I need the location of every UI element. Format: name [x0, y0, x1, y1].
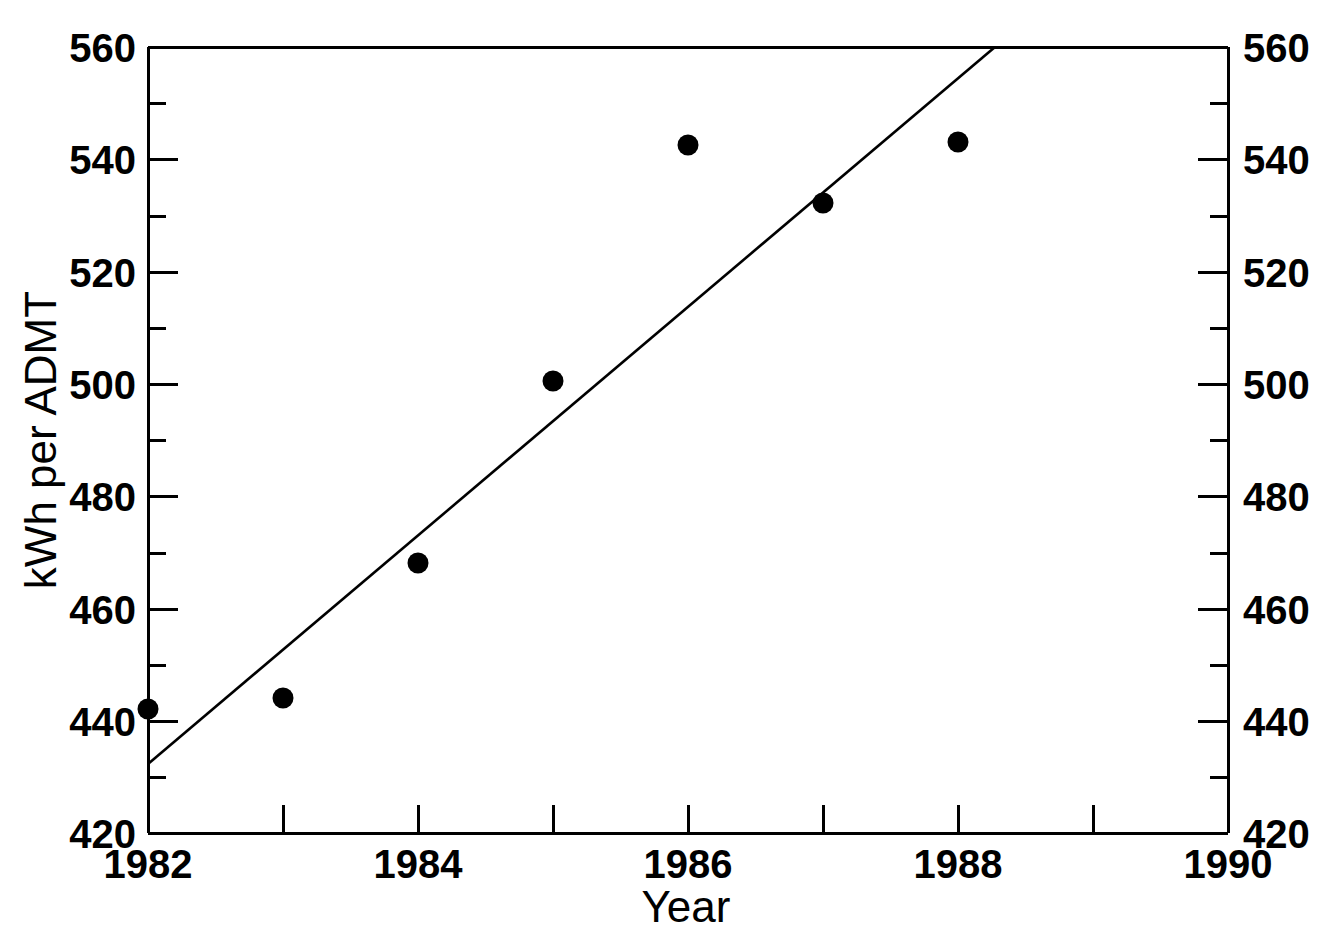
y-label-left-520: 520 [69, 251, 136, 295]
y-label-right-460: 460 [1243, 588, 1310, 632]
y-label-right-540: 540 [1243, 138, 1310, 182]
y-label-left-460: 460 [69, 588, 136, 632]
x-label-1986: 1986 [644, 842, 733, 886]
y-label-left-440: 440 [69, 700, 136, 744]
x-label-1988: 1988 [914, 842, 1003, 886]
y-label-left-540: 540 [69, 138, 136, 182]
y-label-right-520: 520 [1243, 251, 1310, 295]
x-label-1984: 1984 [374, 842, 464, 886]
y-label-right-480: 480 [1243, 475, 1310, 519]
chart-background [0, 0, 1322, 939]
y-label-right-500: 500 [1243, 363, 1310, 407]
data-point-1987 [813, 193, 834, 214]
y-label-left-480: 480 [69, 475, 136, 519]
chart-figure: 420 440 460 480 500 520 540 560 420 440 … [0, 0, 1322, 939]
scatter-plot: 420 440 460 480 500 520 540 560 420 440 … [0, 0, 1322, 939]
y-label-right-440: 440 [1243, 700, 1310, 744]
data-point-1983 [273, 688, 294, 709]
data-point-1986 [678, 135, 699, 156]
data-point-1982 [138, 699, 159, 720]
y-label-left-560: 560 [69, 26, 136, 70]
x-label-1990: 1990 [1184, 842, 1273, 886]
y-label-left-500: 500 [69, 363, 136, 407]
x-axis-title: Year [642, 882, 731, 931]
x-label-1982: 1982 [104, 842, 193, 886]
data-point-1984 [408, 553, 429, 574]
y-axis-title: kWh per ADMT [16, 291, 65, 589]
y-label-right-560: 560 [1243, 26, 1310, 70]
data-point-1988 [948, 132, 969, 153]
data-point-1985 [543, 371, 564, 392]
